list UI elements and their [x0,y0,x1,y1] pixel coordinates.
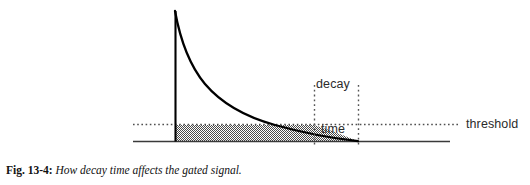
plot-area: decay time threshold [0,0,530,152]
decay-time-label-line2: time [302,122,364,137]
decay-envelope-chart [0,0,530,152]
threshold-label: threshold [466,117,518,132]
figure-caption-number: Fig. 13-4: [6,164,53,176]
figure-caption: Fig. 13-4: How decay time affects the ga… [6,163,242,177]
figure-caption-text: How decay time affects the gated signal. [56,164,242,176]
decay-time-label-line1: decay [302,77,364,92]
decay-time-label: decay time [302,47,364,167]
figure-13-4: decay time threshold Fig. 13-4: How deca… [0,0,530,185]
